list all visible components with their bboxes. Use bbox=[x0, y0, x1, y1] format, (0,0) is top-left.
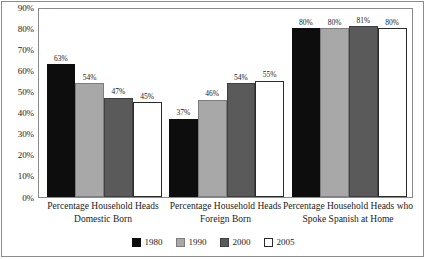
bar-1990-2[interactable] bbox=[320, 28, 349, 197]
plot-inner: 63%54%47%45%37%46%54%55%80%80%81%80% bbox=[39, 9, 412, 197]
legend: 1980199020002005 bbox=[0, 238, 426, 247]
y-tick-label: 90% bbox=[18, 4, 34, 13]
legend-label: 1980 bbox=[145, 238, 163, 247]
y-tick-label: 30% bbox=[18, 130, 34, 139]
bar-1980-1[interactable] bbox=[169, 119, 198, 197]
legend-item-2005[interactable]: 2005 bbox=[264, 238, 295, 247]
category-label-line: Spoke Spanish at Home bbox=[273, 213, 424, 226]
bar-1990-0[interactable] bbox=[75, 83, 104, 197]
x-axis-category-labels: Percentage Household HeadsDomestic BornP… bbox=[38, 200, 413, 234]
legend-item-1990[interactable]: 1990 bbox=[176, 238, 207, 247]
legend-swatch-icon bbox=[176, 238, 185, 247]
plot-area: 63%54%47%45%37%46%54%55%80%80%81%80% bbox=[38, 8, 413, 198]
bar-slot: 37% bbox=[169, 9, 198, 197]
y-tick-label: 80% bbox=[18, 25, 34, 34]
legend-label: 2000 bbox=[233, 238, 251, 247]
bar-group-bars: 80%80%81%80% bbox=[292, 9, 407, 197]
bar-1980-0[interactable] bbox=[47, 64, 76, 197]
bar-group: 80%80%81%80% bbox=[292, 9, 407, 197]
category-label-line: Percentage Household Heads who bbox=[273, 200, 424, 213]
legend-item-2000[interactable]: 2000 bbox=[220, 238, 251, 247]
bar-slot: 45% bbox=[133, 9, 162, 197]
y-tick-label: 10% bbox=[18, 172, 34, 181]
bar-1990-1[interactable] bbox=[198, 100, 227, 197]
bar-2005-2[interactable] bbox=[378, 28, 407, 197]
y-tick-label: 60% bbox=[18, 67, 34, 76]
bar-slot: 80% bbox=[292, 9, 321, 197]
y-tick-label: 40% bbox=[18, 109, 34, 118]
bar-2000-0[interactable] bbox=[104, 98, 133, 197]
bar-slot: 81% bbox=[349, 9, 378, 197]
bar-slot: 63% bbox=[47, 9, 76, 197]
bar-chart: 90%80%70%60%50%40%30%20%10%0% 63%54%47%4… bbox=[0, 0, 426, 259]
bar-slot: 46% bbox=[198, 9, 227, 197]
category-label: Percentage Household Heads whoSpoke Span… bbox=[273, 200, 424, 225]
bar-slot: 80% bbox=[320, 9, 349, 197]
legend-label: 1990 bbox=[189, 238, 207, 247]
y-axis: 90%80%70%60%50%40%30%20%10%0% bbox=[0, 0, 36, 200]
y-tick-label: 70% bbox=[18, 46, 34, 55]
legend-swatch-icon bbox=[132, 238, 141, 247]
bar-slot: 54% bbox=[227, 9, 256, 197]
bar-group: 37%46%54%55% bbox=[169, 9, 284, 197]
legend-item-1980[interactable]: 1980 bbox=[132, 238, 163, 247]
bar-group-bars: 63%54%47%45% bbox=[47, 9, 162, 197]
y-tick-label: 20% bbox=[18, 151, 34, 160]
bar-2005-1[interactable] bbox=[255, 81, 284, 197]
legend-label: 2005 bbox=[277, 238, 295, 247]
bar-value-label: 80% bbox=[363, 19, 421, 27]
y-tick-label: 50% bbox=[18, 88, 34, 97]
legend-swatch-icon bbox=[264, 238, 273, 247]
bar-group: 63%54%47%45% bbox=[47, 9, 162, 197]
bar-value-label: 55% bbox=[241, 71, 299, 79]
bar-group-bars: 37%46%54%55% bbox=[169, 9, 284, 197]
bar-slot: 55% bbox=[255, 9, 284, 197]
legend-swatch-icon bbox=[220, 238, 229, 247]
bar-slot: 47% bbox=[104, 9, 133, 197]
bar-value-label: 45% bbox=[118, 93, 176, 101]
bar-2000-2[interactable] bbox=[349, 26, 378, 197]
bar-2000-1[interactable] bbox=[227, 83, 256, 197]
bar-1980-2[interactable] bbox=[292, 28, 321, 197]
bar-slot: 80% bbox=[378, 9, 407, 197]
bar-slot: 54% bbox=[75, 9, 104, 197]
